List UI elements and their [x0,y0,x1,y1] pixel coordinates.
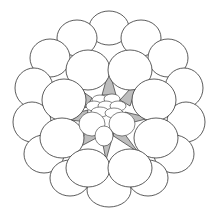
illustration-svg [0,0,218,216]
cell-cluster-illustration [0,0,218,216]
